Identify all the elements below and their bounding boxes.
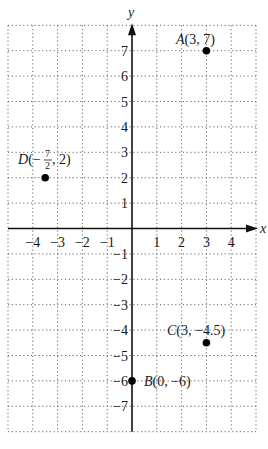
x-tick-label: 2: [178, 235, 185, 250]
y-tick-label: −3: [113, 298, 128, 313]
y-tick-label: −6: [113, 374, 128, 389]
x-tick-label: 4: [228, 235, 235, 250]
svg-text:, 2): , 2): [52, 152, 71, 168]
fraction-numerator: 7: [45, 148, 50, 159]
x-tick-label: −2: [75, 235, 90, 250]
y-tick-label: 7: [121, 44, 128, 59]
point-d-label: D(− 7 2 , 2): [17, 148, 71, 171]
y-tick-label: 3: [121, 145, 128, 160]
y-tick-label: −2: [113, 272, 128, 287]
y-tick-label: −1: [113, 247, 128, 262]
y-tick-label: −4: [113, 323, 128, 338]
y-tick-label: −7: [113, 399, 128, 414]
svg-text:D(−: D(−: [17, 152, 41, 168]
y-axis-label: y: [126, 5, 135, 20]
coordinate-plane: −4−3−2−112347654321−1−2−3−4−5−6−7 y x A(…: [0, 0, 268, 449]
x-tick-label: −3: [50, 235, 65, 250]
x-axis-label: x: [259, 221, 267, 236]
y-tick-label: 6: [121, 69, 128, 84]
x-tick-label: 3: [203, 235, 210, 250]
point-a-marker: [203, 47, 211, 55]
point-b-label: B(0, −6): [144, 374, 191, 390]
x-tick-label: 1: [153, 235, 160, 250]
point-c-label: C(3, −4.5): [167, 323, 225, 339]
axes: [8, 23, 258, 431]
y-tick-label: 1: [121, 196, 128, 211]
x-tick-label: −4: [25, 235, 40, 250]
y-tick-label: 4: [121, 120, 128, 135]
y-tick-label: 5: [121, 95, 128, 110]
point-a-label: A(3, 7): [175, 32, 215, 48]
point-c-marker: [203, 339, 211, 347]
y-tick-label: 2: [121, 171, 128, 186]
fraction-denominator: 2: [45, 160, 50, 171]
point-d-marker: [41, 174, 49, 182]
point-b-marker: [128, 377, 136, 385]
y-tick-label: −5: [113, 349, 128, 364]
y-axis-arrow-icon: [128, 23, 136, 35]
